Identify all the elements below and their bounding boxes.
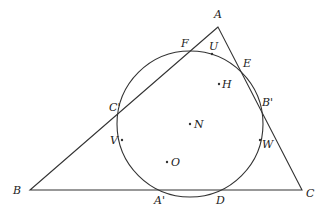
point-label: H (221, 78, 232, 91)
point-b-prime: B' (261, 96, 273, 109)
point-c-prime: C' (109, 101, 120, 114)
point-f: F (180, 37, 189, 50)
point-label: A' (153, 194, 165, 207)
point-marker (189, 123, 191, 125)
point-label: E (242, 57, 251, 70)
point-label: U (209, 40, 219, 53)
nine-point-circle-diagram: FUEHB'C'NVWOA'D ABC (0, 0, 328, 213)
vertex-label-a: A (213, 8, 222, 21)
point-marker (211, 53, 213, 55)
point-label: F (180, 37, 189, 50)
point-marker (121, 139, 123, 141)
point-n: N (189, 118, 204, 131)
point-label: O (171, 156, 180, 169)
labeled-points: FUEHB'C'NVWOA'D (109, 37, 275, 207)
point-u: U (209, 40, 219, 55)
point-a-prime: A' (153, 194, 165, 207)
point-marker (218, 83, 220, 85)
point-label: V (110, 134, 119, 147)
point-h: H (218, 78, 232, 91)
point-label: D (215, 194, 225, 207)
point-marker (166, 161, 168, 163)
vertex-label-c: C (306, 187, 315, 200)
point-d: D (215, 194, 225, 207)
point-label: N (193, 118, 204, 131)
point-marker (259, 139, 261, 141)
point-label: W (262, 138, 275, 151)
point-label: B' (261, 96, 273, 109)
point-o: O (166, 156, 180, 169)
point-w: W (259, 138, 275, 151)
point-v: V (110, 134, 123, 147)
point-e: E (242, 57, 251, 70)
point-label: C' (109, 101, 120, 114)
vertex-label-b: B (12, 184, 21, 197)
